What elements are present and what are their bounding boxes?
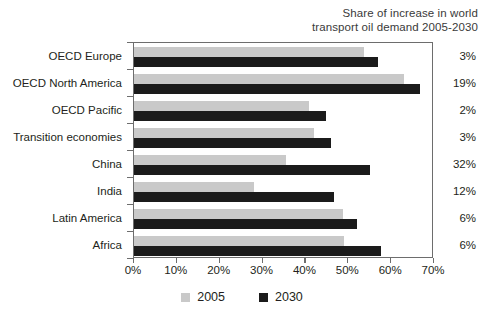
x-axis-tick-labels: 0%10%20%30%40%50%60%70% xyxy=(133,264,433,280)
bar-2005 xyxy=(134,101,309,111)
x-axis-tick-label: 30% xyxy=(250,264,273,277)
category-label: OECD Europe xyxy=(48,50,122,62)
share-value: 3% xyxy=(459,50,476,62)
chart-annotation: Share of increase in world transport oil… xyxy=(258,6,478,34)
x-axis-tick xyxy=(304,258,305,263)
category-label: OECD North America xyxy=(13,77,122,89)
bar-2005 xyxy=(134,236,344,246)
x-axis-tick-label: 50% xyxy=(336,264,359,277)
bar-2030 xyxy=(134,219,357,229)
bar-group xyxy=(134,209,432,229)
bar-2005 xyxy=(134,74,404,84)
x-axis-tick-label: 60% xyxy=(379,264,402,277)
share-of-increase-column: 3%19%2%3%32%12%6%6% xyxy=(434,42,484,258)
category-label: India xyxy=(97,185,122,197)
chart-container: Share of increase in world transport oil… xyxy=(0,0,484,315)
chart-annotation-line-1: Share of increase in world xyxy=(258,6,478,20)
share-value: 12% xyxy=(453,185,476,197)
share-value: 19% xyxy=(453,77,476,89)
bar-group xyxy=(134,47,432,67)
x-axis-tick-label: 40% xyxy=(293,264,316,277)
bar-group xyxy=(134,101,432,121)
legend-item[interactable]: 2030 xyxy=(259,291,303,304)
share-value: 2% xyxy=(459,104,476,116)
x-axis-tick xyxy=(262,258,263,263)
category-label: Africa xyxy=(93,239,122,251)
bar-2005 xyxy=(134,47,364,57)
x-axis-tick xyxy=(133,258,134,263)
category-label: Transition economies xyxy=(13,131,122,143)
bar-2005 xyxy=(134,182,254,192)
share-value: 3% xyxy=(459,131,476,143)
x-axis-tick xyxy=(176,258,177,263)
bar-2030 xyxy=(134,165,370,175)
bar-2030 xyxy=(134,246,381,256)
share-value: 6% xyxy=(459,212,476,224)
legend-item[interactable]: 2005 xyxy=(181,291,225,304)
x-axis-tick-label: 70% xyxy=(421,264,444,277)
category-label: OECD Pacific xyxy=(52,104,122,116)
x-axis-tick-label: 20% xyxy=(207,264,230,277)
legend-label: 2005 xyxy=(197,291,225,304)
category-label: Latin America xyxy=(52,212,122,224)
x-axis-tick-label: 0% xyxy=(125,264,142,277)
bar-group xyxy=(134,128,432,148)
legend-swatch-2005 xyxy=(181,293,190,302)
chart-annotation-line-2: transport oil demand 2005-2030 xyxy=(258,20,478,34)
legend-label: 2030 xyxy=(275,291,303,304)
x-axis-tick xyxy=(347,258,348,263)
bar-2030 xyxy=(134,111,326,121)
legend-swatch-2030 xyxy=(259,293,268,302)
x-axis-tick xyxy=(433,258,434,263)
share-value: 32% xyxy=(453,158,476,170)
bar-group xyxy=(134,155,432,175)
bar-2030 xyxy=(134,57,378,67)
category-label: China xyxy=(92,158,122,170)
chart-legend: 20052030 xyxy=(0,287,484,307)
bar-2030 xyxy=(134,84,420,94)
plot-area xyxy=(133,42,433,258)
x-axis-tick xyxy=(390,258,391,263)
x-axis-tick-label: 10% xyxy=(164,264,187,277)
bar-group xyxy=(134,182,432,202)
bar-2005 xyxy=(134,155,286,165)
share-value: 6% xyxy=(459,239,476,251)
bar-2030 xyxy=(134,192,334,202)
bar-group xyxy=(134,74,432,94)
x-axis-tick xyxy=(219,258,220,263)
bar-group xyxy=(134,236,432,256)
bar-2005 xyxy=(134,209,343,219)
bar-2030 xyxy=(134,138,331,148)
category-axis-labels: OECD EuropeOECD North AmericaOECD Pacifi… xyxy=(0,42,128,258)
bar-2005 xyxy=(134,128,314,138)
